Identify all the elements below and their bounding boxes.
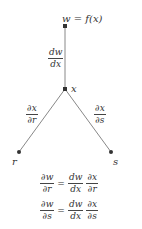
- fraction-denominator: ∂s: [87, 211, 98, 221]
- lhs-fraction: ∂w ∂s: [40, 200, 54, 221]
- node-top-label: w = f(x): [62, 14, 102, 24]
- fraction-numerator: dw: [48, 48, 63, 59]
- node-top: [63, 24, 67, 28]
- fraction-denominator: ∂r: [87, 184, 98, 194]
- equals-sign: =: [57, 179, 65, 189]
- equation-dw-dr: ∂w ∂r = dw dx ∂x ∂r: [40, 173, 98, 194]
- fraction-numerator: ∂w: [40, 173, 54, 184]
- fraction-denominator: ∂s: [94, 115, 105, 125]
- node-right: [109, 150, 113, 154]
- node-right-label: s: [113, 157, 118, 167]
- fraction-numerator: dw: [68, 173, 83, 184]
- fraction-denominator: dx: [69, 211, 82, 221]
- fraction-numerator: dw: [68, 200, 83, 211]
- rhs-fraction-1: dw dx: [68, 173, 83, 194]
- edge-label-dx-dr: ∂x ∂r: [26, 104, 38, 125]
- fraction-numerator: ∂x: [26, 104, 38, 115]
- fraction-denominator: ∂s: [42, 211, 53, 221]
- node-left: [17, 150, 21, 154]
- rhs-fraction-1: dw dx: [68, 200, 83, 221]
- fraction-numerator: ∂x: [94, 104, 106, 115]
- fraction-denominator: ∂r: [26, 115, 37, 125]
- equals-sign: =: [57, 206, 65, 216]
- lhs-fraction: ∂w ∂r: [40, 173, 54, 194]
- tree-diagram: [0, 0, 142, 229]
- fraction-denominator: ∂r: [42, 184, 53, 194]
- fraction-denominator: dx: [49, 59, 62, 69]
- rhs-fraction-2: ∂x ∂r: [86, 173, 98, 194]
- edge-label-dw-dx: dw dx: [48, 48, 63, 69]
- equation-dw-ds: ∂w ∂s = dw dx ∂x ∂s: [40, 200, 98, 221]
- node-middle: [63, 87, 67, 91]
- edge-label-dx-ds: ∂x ∂s: [94, 104, 106, 125]
- rhs-fraction-2: ∂x ∂s: [86, 200, 98, 221]
- fraction-denominator: dx: [69, 184, 82, 194]
- fraction-numerator: ∂x: [86, 200, 98, 211]
- node-left-label: r: [12, 157, 17, 167]
- fraction-numerator: ∂x: [86, 173, 98, 184]
- node-middle-label: x: [71, 84, 77, 94]
- fraction-numerator: ∂w: [40, 200, 54, 211]
